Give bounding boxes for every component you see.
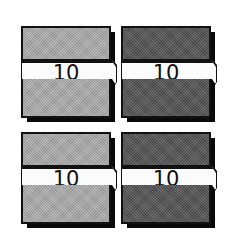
chip-top-right: 10 xyxy=(121,26,217,124)
chip-bottom-left: 10 xyxy=(21,132,117,230)
chip-bottom-right: 10 xyxy=(121,132,217,230)
chip-top-left: 10 xyxy=(21,26,117,124)
